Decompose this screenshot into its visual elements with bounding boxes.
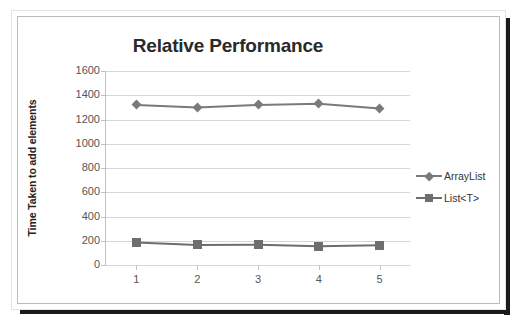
data-point-marker [193, 240, 202, 249]
x-axis-tick-labels: 12345 [106, 273, 410, 289]
y-axis-tick-label: 1600 [60, 64, 100, 76]
x-axis-tick [136, 265, 137, 270]
x-axis-tick-label: 4 [299, 273, 339, 285]
x-axis-tick-label: 2 [177, 273, 217, 285]
y-axis-tick-label: 0 [60, 258, 100, 270]
legend-label: List<T> [444, 192, 479, 204]
y-axis-tick-label: 1400 [60, 88, 100, 100]
y-axis-tick-label: 1000 [60, 137, 100, 149]
y-axis-tick-label: 400 [60, 210, 100, 222]
chart-title: Relative Performance [18, 35, 438, 57]
data-point-marker [314, 242, 323, 251]
plot-area [106, 71, 410, 265]
x-axis-tick-label: 1 [116, 273, 156, 285]
legend-marker-icon [416, 170, 442, 182]
y-axis-tick-label: 800 [60, 161, 100, 173]
data-point-marker [254, 240, 263, 249]
chart-legend: ArrayListList<T> [416, 165, 499, 209]
legend-item-1[interactable]: List<T> [416, 187, 499, 209]
x-axis-tick-label: 5 [360, 273, 400, 285]
x-axis-tick [197, 265, 198, 270]
chart-area: Relative Performance Time Taken to add e… [18, 17, 499, 303]
x-axis-tick [319, 265, 320, 270]
legend-label: ArrayList [444, 170, 485, 182]
x-axis-tick-label: 3 [238, 273, 278, 285]
y-axis-title: Time Taken to add elements [26, 71, 40, 265]
data-point-marker [132, 238, 141, 247]
legend-item-0[interactable]: ArrayList [416, 165, 499, 187]
y-axis-tick-label: 1200 [60, 113, 100, 125]
y-axis-tick-label: 200 [60, 234, 100, 246]
figure-container: Relative Performance Time Taken to add e… [0, 0, 523, 321]
legend-marker-icon [416, 192, 442, 204]
x-axis-tick [380, 265, 381, 270]
y-axis-tick-label: 600 [60, 185, 100, 197]
data-point-marker [375, 241, 384, 250]
y-axis-tick [101, 265, 106, 266]
x-axis-tick [258, 265, 259, 270]
y-axis-tick-labels: 02004006008001000120014001600 [56, 71, 100, 265]
